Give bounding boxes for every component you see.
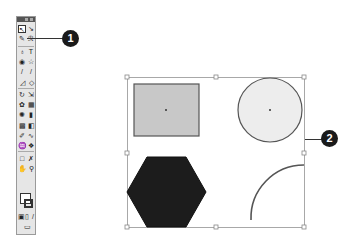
circle-center-point [269, 109, 271, 111]
arc-shape[interactable] [251, 165, 304, 220]
rectangle-center-point [165, 109, 167, 111]
artboard-canvas[interactable] [0, 0, 362, 250]
hexagon-shape[interactable] [127, 157, 206, 227]
